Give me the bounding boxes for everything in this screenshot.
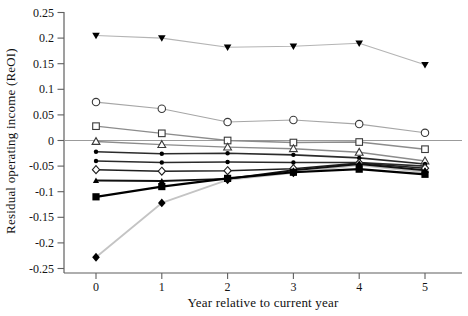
series-5-small-dot-a-marker xyxy=(291,153,295,157)
line-chart-canvas: 0.250.20.150.10.050-0.05-0.1-0.15-0.2-0.… xyxy=(0,0,468,316)
series-2-open-circle-marker xyxy=(421,129,428,136)
x-tick-label: 5 xyxy=(422,280,428,294)
series-1-filled-down-triangle-line xyxy=(96,36,425,65)
y-tick-label: -0.2 xyxy=(35,236,54,250)
y-tick-label: 0.15 xyxy=(33,57,54,71)
x-tick-label: 1 xyxy=(159,280,165,294)
y-tick-label: -0.05 xyxy=(29,159,54,173)
series-2-open-circle-marker xyxy=(224,118,231,125)
series-7-open-diamond-marker xyxy=(92,166,99,174)
reoi-line-chart-figure: 0.250.20.150.10.050-0.05-0.1-0.15-0.2-0.… xyxy=(0,0,468,316)
series-2-open-circle-marker xyxy=(158,105,165,112)
series-5-small-dot-a-marker xyxy=(160,152,164,156)
series-2-open-circle-line xyxy=(96,102,425,133)
series-6-small-dot-b-marker xyxy=(225,160,229,164)
series-5-small-dot-a-marker xyxy=(225,151,229,155)
series-6-small-dot-b-marker xyxy=(94,159,98,163)
y-tick-label: -0.1 xyxy=(35,185,54,199)
series-1-filled-down-triangle-marker xyxy=(421,62,429,69)
series-9-filled-square-line xyxy=(96,169,425,197)
y-tick-label: -0.15 xyxy=(29,210,54,224)
series-3-open-square-marker xyxy=(356,139,363,146)
series-9-filled-square-marker xyxy=(158,183,165,190)
y-tick-label: -0.25 xyxy=(29,262,54,276)
y-tick-label: 0.25 xyxy=(33,6,54,20)
y-tick-label: 0.1 xyxy=(39,82,54,96)
x-tick-label: 3 xyxy=(290,280,296,294)
series-3-open-square-line xyxy=(96,126,425,149)
series-2-open-circle-marker xyxy=(92,98,99,105)
series-7-open-diamond-marker xyxy=(224,167,231,175)
series-7-open-diamond-marker xyxy=(158,167,165,175)
y-axis-title: Residual operating income (ReOI) xyxy=(3,48,19,234)
series-3-open-square-marker xyxy=(93,123,100,130)
series-3-open-square-marker xyxy=(422,146,429,153)
x-tick-label: 4 xyxy=(356,280,362,294)
series-5-small-dot-a-marker xyxy=(94,150,98,154)
series-2-open-circle-marker xyxy=(290,116,297,123)
series-3-open-square-marker xyxy=(159,130,166,137)
y-tick-label: 0 xyxy=(48,134,54,148)
y-tick-label: 0.05 xyxy=(33,108,54,122)
series-6-small-dot-b-marker xyxy=(160,160,164,164)
series-9-filled-square-marker xyxy=(92,193,99,200)
series-10-filled-diamond-line xyxy=(96,165,425,257)
y-tick-label: 0.2 xyxy=(39,31,54,45)
x-tick-label: 0 xyxy=(93,280,99,294)
x-tick-label: 2 xyxy=(225,280,231,294)
x-axis-title: Year relative to current year xyxy=(187,295,338,311)
series-2-open-circle-marker xyxy=(356,120,363,127)
